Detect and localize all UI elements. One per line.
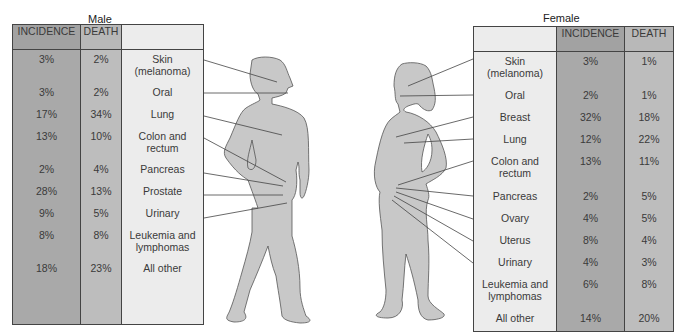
body-figures <box>0 0 679 336</box>
female-silhouette <box>374 63 446 320</box>
male-silhouette <box>224 57 310 323</box>
